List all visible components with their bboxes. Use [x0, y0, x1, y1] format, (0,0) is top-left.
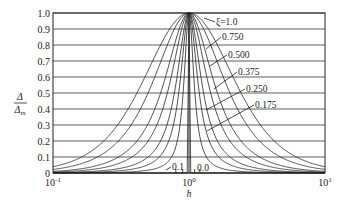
- x-tick-label: 100: [182, 176, 196, 188]
- y-tick-label: 0.2: [38, 136, 51, 147]
- curve-label: 0.750: [222, 32, 244, 42]
- svg-text:Δ: Δ: [16, 91, 23, 102]
- x-tick-labels: 10-1100101: [45, 176, 332, 188]
- y-tick-label: 0.6: [38, 72, 51, 83]
- curve-label: 0.1: [172, 162, 184, 172]
- curve-label: 0.375: [238, 67, 260, 77]
- y-tick-label: 1.0: [38, 8, 51, 19]
- y-tick-label: 0.8: [38, 40, 51, 51]
- y-tick-label: 0.7: [38, 56, 51, 67]
- curve-label: 0.175: [255, 100, 277, 110]
- y-tick-label: 0.4: [38, 104, 51, 115]
- y-tick-label: 0.3: [38, 120, 51, 131]
- y-tick-label: 0.5: [38, 88, 51, 99]
- x-axis-label: h: [187, 188, 192, 199]
- curve-label: 0.250: [246, 84, 268, 94]
- curve-label: 0.0: [197, 163, 209, 173]
- resonance-chart: 00.10.20.30.40.50.60.70.80.91.0 10-11001…: [0, 0, 337, 205]
- y-tick-labels: 00.10.20.30.40.50.60.70.80.91.0: [38, 8, 51, 179]
- svg-text:Δm: Δm: [14, 104, 26, 117]
- x-tick-label: 101: [318, 176, 332, 188]
- y-tick-label: 0.1: [38, 152, 51, 163]
- y-axis-label: ΔΔm: [14, 91, 27, 117]
- x-tick-label: 10-1: [45, 176, 61, 188]
- y-tick-label: 0.9: [38, 24, 51, 35]
- curve-label: 0.500: [228, 50, 250, 60]
- curve-label: ξ=1.0: [216, 17, 238, 28]
